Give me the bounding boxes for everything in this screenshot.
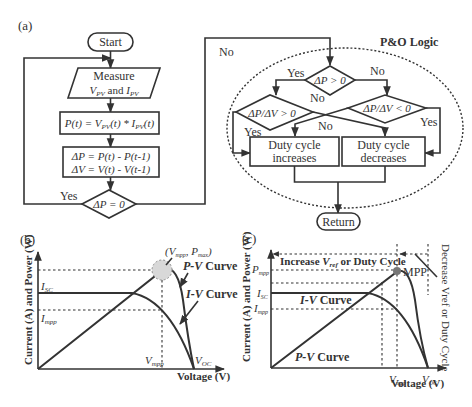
panel-c-chart: (c) Current (A) and Power (W) Voltage (V…	[240, 231, 452, 390]
iv-curve	[38, 293, 194, 369]
yes-label-loop: Yes	[60, 189, 78, 203]
svg-text:Duty cycle: Duty cycle	[268, 138, 320, 152]
svg-text:Duty cycle: Duty cycle	[357, 138, 409, 152]
svg-text:Yes: Yes	[420, 115, 438, 129]
svg-text:VOC: VOC	[195, 354, 212, 368]
svg-text:No: No	[370, 64, 385, 78]
return-terminal: Return	[317, 213, 360, 230]
svg-text:Yes: Yes	[287, 66, 305, 80]
panel-b-chart: (b) Current (A) and Power (W) Voltage (V…	[20, 232, 238, 383]
svg-text:VOC: VOC	[422, 373, 438, 386]
power-calc-step: P(t) = VPV(t) * IPV(t)	[60, 112, 159, 134]
delta-calc-step: ΔP = P(t) - P(t-1) ΔV = V(t) - V(t-1)	[63, 147, 159, 177]
svg-text:ΔP/ΔV < 0: ΔP/ΔV < 0	[362, 102, 411, 114]
decision-delta-p-zero: ΔP = 0	[82, 190, 136, 218]
panel-a-label: (a)	[18, 18, 32, 33]
pv-curve-label-c: P-V Curve	[295, 350, 350, 364]
svg-text:ISC: ISC	[256, 287, 269, 300]
panel-b-ylabel: Current (A) and Power (W)	[22, 234, 35, 365]
svg-text:(Vmpp, Pmax): (Vmpp, Pmax)	[165, 245, 212, 258]
po-logic-title: P&O Logic	[380, 35, 439, 49]
measure-input-step: Measure VPV and IPV	[68, 68, 160, 98]
svg-text:ΔP = P(t) - P(t-1): ΔP = P(t) - P(t-1)	[71, 150, 151, 163]
mpp-halo-marker	[152, 260, 172, 280]
mpp-label: MPP	[403, 265, 427, 279]
svg-text:decreases: decreases	[361, 151, 407, 165]
decision-dpdv-negative: ΔP/ΔV < 0	[348, 95, 426, 123]
svg-text:Measure: Measure	[93, 69, 134, 83]
svg-text:Pmpp: Pmpp	[251, 263, 269, 276]
decrease-region-label: Decrease Vref or Duty Cycle	[440, 244, 452, 372]
svg-text:ΔP = 0: ΔP = 0	[92, 198, 125, 210]
iv-curve-label-c: I-V Curve	[299, 293, 352, 307]
duty-cycle-decreases-box: Duty cycle decreases	[342, 137, 425, 166]
panel-c-ylabel: Current (A) and Power (W)	[240, 231, 253, 362]
pv-curve	[38, 269, 194, 369]
svg-text:ΔP > 0: ΔP > 0	[313, 74, 346, 86]
start-terminal: Start	[88, 33, 133, 51]
panel-b-xlabel: Voltage (V)	[177, 370, 230, 383]
svg-text:Impp: Impp	[40, 312, 57, 326]
pv-mppt-figure: (a) Start Measure VPV and IPV P(t) = VPV…	[0, 0, 472, 407]
svg-text:increases: increases	[273, 151, 317, 165]
svg-text:Start: Start	[99, 35, 122, 49]
svg-text:ΔP/ΔV > 0: ΔP/ΔV > 0	[247, 107, 296, 119]
svg-text:Return: Return	[322, 215, 355, 229]
po-logic-block: P&O Logic ΔP > 0 Yes No ΔP/ΔV > 0 ΔP/ΔV …	[227, 35, 463, 230]
svg-text:ISC: ISC	[40, 280, 53, 294]
svg-text:Vmpp: Vmpp	[145, 354, 164, 368]
duty-cycle-increases-box: Duty cycle increases	[250, 137, 339, 166]
svg-text:ΔV = V(t) - V(t-1): ΔV = V(t) - V(t-1)	[71, 163, 151, 176]
svg-text:No: No	[318, 119, 333, 133]
increase-region-label: Increase Vref or Duty Cycle	[280, 255, 406, 269]
pv-curve-label: P-V Curve	[183, 259, 238, 273]
mpp-marker	[393, 267, 401, 275]
svg-text:No: No	[310, 91, 325, 105]
no-label-po: No	[219, 45, 234, 59]
iv-curve-label: I-V Curve	[185, 287, 238, 301]
svg-text:Impp: Impp	[253, 302, 268, 315]
svg-text:Vmpp: Vmpp	[389, 373, 406, 386]
